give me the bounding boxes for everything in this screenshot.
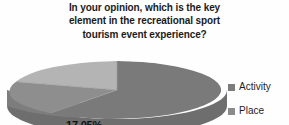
legend-label-activity: Activity xyxy=(239,81,271,93)
chart-title-line-3: tourism event experience? xyxy=(8,28,281,41)
legend-item-activity[interactable]: Activity xyxy=(228,78,289,95)
chart-title: In your opinion, which is the key elemen… xyxy=(8,1,281,41)
legend-label-place: Place xyxy=(239,105,264,117)
pie-plot-area: 17,05% 23,30% 59,66% xyxy=(0,50,232,125)
legend-item-place[interactable]: Place xyxy=(228,102,289,119)
chart-title-line-1: In your opinion, which is the key xyxy=(8,1,281,14)
pie-graphic xyxy=(6,54,228,125)
pie-chart-figure: In your opinion, which is the key elemen… xyxy=(0,0,289,125)
chart-legend: Activity Place xyxy=(228,78,289,125)
legend-swatch-icon xyxy=(228,84,235,91)
chart-title-line-2: element in the recreational sport xyxy=(8,14,281,27)
legend-swatch-icon xyxy=(228,108,235,115)
pie-data-label-people: 17,05% xyxy=(66,119,102,125)
pie-svg xyxy=(6,54,228,125)
